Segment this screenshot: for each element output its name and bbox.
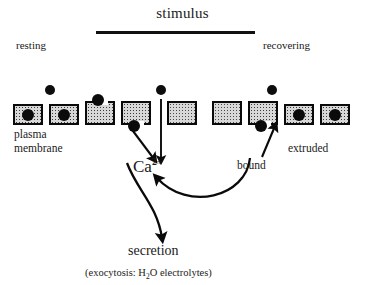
calcium-charge: 2+ [152,157,162,167]
arrow-calcium-influx-diagonal [130,127,154,159]
exocytosis-footnote: (exocytosis: H2O electrolytes) [85,268,212,281]
calcium-symbol: Ca [133,157,152,176]
bound-calcium-label: bound [237,160,266,172]
plasma-membrane-label-line2: membrane [14,143,63,155]
arrow-calcium-extrusion [262,126,275,157]
calcium-ion-label: Ca2+ [133,158,162,175]
extruded-calcium-label: extruded [288,143,328,155]
footnote-prefix: (exocytosis: H [85,267,146,278]
secretion-label: secretion [128,244,179,258]
footnote-suffix: O electrolytes) [150,267,212,278]
diagram-canvas: stimulus resting recovering [0,0,365,285]
plasma-membrane-label-line1: plasma [14,129,47,141]
